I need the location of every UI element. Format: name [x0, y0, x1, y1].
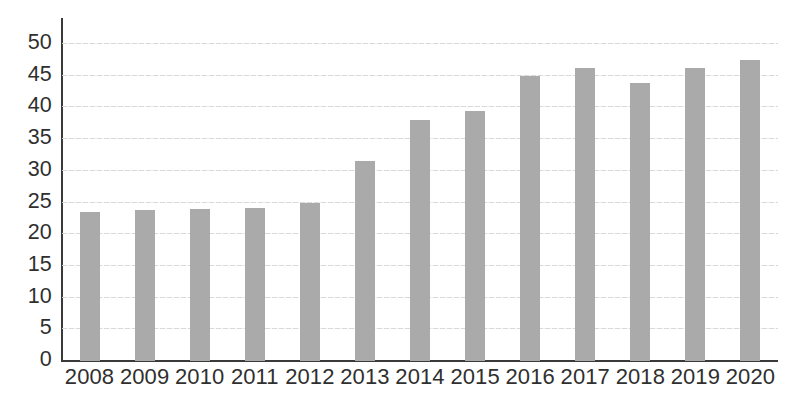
y-tick-label-30: 30 [8, 159, 52, 181]
bar-2019 [685, 68, 705, 361]
y-tick-label-20: 20 [8, 222, 52, 244]
y-tick-label-5: 5 [8, 317, 52, 339]
x-tick-label-2020: 2020 [713, 366, 787, 388]
y-tick-label-10: 10 [8, 286, 52, 308]
y-tick-label-0: 0 [8, 349, 52, 371]
y-tick-label-45: 45 [8, 64, 52, 86]
y-tick-label-50: 50 [8, 32, 52, 54]
bar-2014 [410, 120, 430, 361]
bar-2009 [135, 210, 155, 361]
bar-2018 [630, 83, 650, 361]
bar-2020 [740, 60, 760, 361]
bar-2017 [575, 68, 595, 361]
bar-chart-figure: 50454035302520151050 2008200920102011201… [0, 0, 789, 406]
y-tick-label-25: 25 [8, 191, 52, 213]
bar-2011 [245, 208, 265, 361]
bar-2012 [300, 203, 320, 362]
bar-2015 [465, 111, 485, 361]
bars-layer [62, 18, 778, 361]
bar-2008 [80, 212, 100, 361]
bar-2013 [355, 161, 375, 361]
y-tick-label-40: 40 [8, 95, 52, 117]
bar-2010 [190, 209, 210, 361]
y-tick-label-35: 35 [8, 127, 52, 149]
bar-2016 [520, 76, 540, 361]
y-tick-label-15: 15 [8, 254, 52, 276]
